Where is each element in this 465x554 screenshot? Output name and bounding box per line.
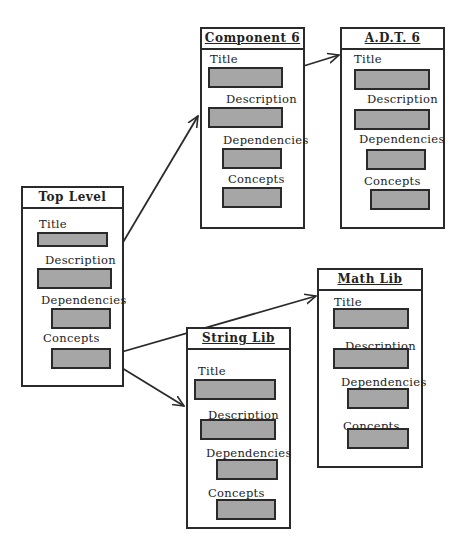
field-box-title[interactable] <box>37 232 108 247</box>
node-adt6[interactable]: A.D.T. 6 Title Description Dependencies … <box>340 27 445 229</box>
field-box-concepts[interactable] <box>222 187 282 208</box>
node-math-lib[interactable]: Math Lib Title Description Dependencies … <box>317 268 423 468</box>
field-label-concepts: Concepts <box>228 173 285 186</box>
node-title: Component 6 <box>202 29 303 50</box>
field-box-description[interactable] <box>37 268 112 289</box>
field-box-concepts[interactable] <box>370 189 430 210</box>
field-box-concepts[interactable] <box>216 499 276 520</box>
field-label-dependencies: Dependencies <box>41 294 127 307</box>
field-label-title: Title <box>210 53 238 66</box>
field-label-description: Description <box>226 93 297 106</box>
node-component6[interactable]: Component 6 Title Description Dependenci… <box>200 27 305 229</box>
field-box-title[interactable] <box>354 69 430 90</box>
field-box-concepts[interactable] <box>51 348 111 369</box>
field-label-concepts: Concepts <box>364 175 421 188</box>
field-label-description: Description <box>367 93 438 106</box>
field-box-dependencies[interactable] <box>51 308 111 329</box>
field-label-dependencies: Dependencies <box>359 133 445 146</box>
node-top-level[interactable]: Top Level Title Description Dependencies… <box>21 186 124 387</box>
field-box-title[interactable] <box>194 379 276 400</box>
node-title: String Lib <box>188 329 289 350</box>
node-title: A.D.T. 6 <box>342 29 443 50</box>
field-label-dependencies: Dependencies <box>223 134 309 147</box>
field-box-dependencies[interactable] <box>366 149 426 170</box>
field-box-description[interactable] <box>333 348 409 369</box>
field-box-title[interactable] <box>333 308 409 329</box>
field-label-title: Title <box>39 218 67 231</box>
field-label-title: Title <box>354 53 382 66</box>
field-box-dependencies[interactable] <box>216 459 278 480</box>
field-box-dependencies[interactable] <box>347 388 409 409</box>
field-box-title[interactable] <box>208 67 283 88</box>
field-label-concepts: Concepts <box>43 332 100 345</box>
field-label-description: Description <box>45 254 116 267</box>
field-box-description[interactable] <box>200 419 276 440</box>
node-title: Math Lib <box>319 270 421 291</box>
field-box-concepts[interactable] <box>347 428 409 449</box>
field-box-description[interactable] <box>354 109 430 130</box>
node-string-lib[interactable]: String Lib Title Description Dependencie… <box>186 327 291 529</box>
node-title: Top Level <box>23 188 122 209</box>
field-box-description[interactable] <box>208 107 283 128</box>
field-label-title: Title <box>198 365 226 378</box>
field-box-dependencies[interactable] <box>222 148 282 169</box>
